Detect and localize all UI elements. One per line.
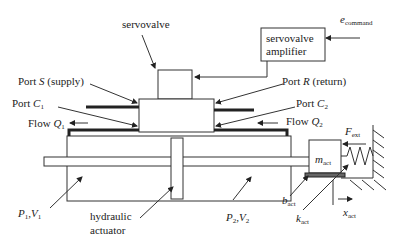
servovalve-spool-box	[158, 70, 192, 99]
c2-pipe	[214, 130, 287, 136]
b-act-label: bact	[282, 194, 296, 210]
flow-q2-label: Flow Q2	[286, 115, 323, 131]
k-act-label: kact	[296, 212, 309, 228]
piston	[171, 138, 183, 199]
p1-v1-label: P1,V1	[18, 207, 41, 223]
m-act-label: mact	[315, 153, 331, 169]
c1-pipe	[69, 130, 139, 136]
x-act-label: xact	[343, 206, 356, 222]
port-c2-label: Port C2	[296, 97, 328, 113]
actuator-label-line2: actuator	[90, 224, 125, 236]
port-c1-label: Port C1	[12, 97, 44, 113]
port-s-label: Port S (supply)	[18, 75, 84, 87]
e-command-label: ecommand	[340, 13, 373, 29]
p2-v2-label: P2,V2	[226, 211, 249, 227]
piston-rod	[44, 157, 328, 166]
amplifier-label-line1: servovalve	[266, 32, 314, 44]
port-r-label: Port R (return)	[282, 75, 346, 87]
servovalve-body	[139, 99, 214, 132]
actuator-label-line1: hydraulic	[90, 210, 132, 222]
servovalve-label: servovalve	[122, 18, 170, 30]
flow-q1-label: Flow Q1	[28, 117, 65, 133]
hydraulic-diagram: servovalve servovalve amplifier ecommand…	[0, 0, 400, 241]
f-ext-label: Fext	[345, 125, 360, 141]
amplifier-label-line2: amplifier	[266, 45, 306, 57]
